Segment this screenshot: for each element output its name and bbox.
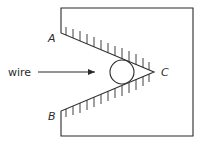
hatching-lower-face [66, 74, 149, 117]
point-b-label: B [48, 110, 56, 123]
point-a-label: A [47, 32, 56, 45]
point-c-label: C [161, 66, 169, 79]
hatching-upper-face [66, 27, 149, 70]
wire-label: wire [8, 66, 31, 79]
wire-circle [110, 60, 134, 84]
v-groove-diagram: wire A B C [0, 0, 200, 154]
